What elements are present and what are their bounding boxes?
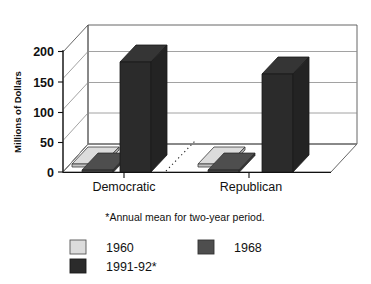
- left-wall: [63, 25, 88, 172]
- floor-divider-dotted-line: [166, 140, 196, 171]
- bar-republican-1991-92: [262, 57, 309, 172]
- bar-side-face: [293, 57, 309, 172]
- bar-chart: 200 150 100 50 0 Millions of Dollars: [0, 0, 371, 284]
- legend-swatch-1991-92: [70, 259, 86, 273]
- legend-item-1968[interactable]: 1968: [198, 240, 262, 255]
- legend-label-1960: 1960: [106, 241, 134, 255]
- gridline-100-depth: [63, 113, 88, 141]
- legend-label-1968: 1968: [234, 241, 262, 255]
- x-axis: [63, 173, 331, 179]
- y-tick-label-150: 150: [33, 76, 54, 90]
- bar-democratic-1991-92: [120, 45, 167, 172]
- x-axis-label-republican: Republican: [220, 180, 283, 194]
- legend-swatch-1968: [198, 240, 214, 254]
- bar-side-face: [151, 45, 167, 172]
- legend-item-1991-92[interactable]: 1991-92*: [70, 259, 157, 274]
- bar-front-face: [120, 62, 151, 172]
- legend-item-1960[interactable]: 1960: [70, 240, 134, 255]
- chart-footnote: *Annual mean for two-year period.: [105, 211, 264, 223]
- legend-label-1991-92: 1991-92*: [106, 260, 157, 274]
- bar-front-face: [262, 74, 293, 172]
- y-tick-label-50: 50: [40, 136, 54, 150]
- chart-svg: 200 150 100 50 0 Millions of Dollars: [0, 0, 371, 284]
- y-axis: [58, 50, 63, 173]
- y-tick-label-200: 200: [33, 45, 54, 59]
- gridline-150-depth: [63, 83, 88, 110]
- legend: 1960 1968 1991-92*: [70, 240, 262, 274]
- y-tick-label-0: 0: [47, 166, 54, 180]
- legend-swatch-1960: [70, 240, 86, 254]
- gridline-200-depth: [63, 52, 88, 79]
- x-axis-label-democratic: Democratic: [92, 180, 155, 194]
- y-axis-title: Millions of Dollars: [12, 71, 23, 153]
- y-tick-label-100: 100: [33, 106, 54, 120]
